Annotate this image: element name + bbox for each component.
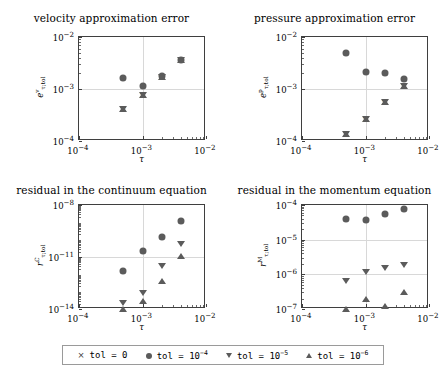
y-tick-minor <box>79 280 81 281</box>
x-tick <box>429 304 430 307</box>
y-tick-minor <box>79 294 81 295</box>
x-tick <box>429 136 430 139</box>
y-axis-label: rCτ;tol <box>34 227 47 283</box>
y-tick-minor <box>79 224 81 225</box>
chart-panel-top-right: pressure approximation error10−410−310−2… <box>223 0 446 168</box>
y-tick-minor <box>79 297 81 298</box>
y-tick-minor <box>79 281 81 282</box>
x-tick <box>366 136 367 139</box>
legend-entry-3: tol = 10−6 <box>305 349 368 361</box>
y-tick-minor <box>302 282 304 283</box>
plot-area <box>301 204 428 308</box>
data-point-circle <box>120 267 127 274</box>
data-point-circle <box>139 82 146 89</box>
y-tick <box>79 309 82 310</box>
x-tick-minor <box>203 305 204 307</box>
y-tick-minor <box>302 299 304 300</box>
y-tick-minor <box>79 245 81 246</box>
y-tick-minor <box>302 243 304 244</box>
x-tick-minor <box>162 137 163 139</box>
x-tick-minor <box>423 305 424 307</box>
data-point-circle <box>177 217 184 224</box>
data-point-triangle-up <box>177 253 185 259</box>
y-tick-minor <box>79 252 81 253</box>
triangle-up-icon <box>305 351 314 360</box>
y-tick-minor <box>79 206 81 207</box>
x-tick-minor <box>196 305 197 307</box>
y-tick-minor <box>79 231 81 232</box>
y-tick-label: 10−8 <box>38 198 74 211</box>
gridline-horizontal <box>302 240 427 241</box>
y-tick-minor <box>79 286 81 287</box>
data-point-triangle-up <box>158 74 166 80</box>
y-tick-minor <box>302 253 304 254</box>
y-tick-minor <box>79 244 81 245</box>
x-tick-label: 10−4 <box>283 143 319 156</box>
x-tick-minor <box>410 305 411 307</box>
y-tick-minor <box>79 275 81 276</box>
x-axis-label: τ <box>345 322 385 332</box>
y-tick-minor <box>79 226 81 227</box>
x-tick-label: 10−4 <box>60 311 96 324</box>
x-tick <box>302 304 303 307</box>
x-tick-label: 10−4 <box>283 311 319 324</box>
x-tick-minor <box>404 137 405 139</box>
y-tick-minor <box>79 228 81 229</box>
data-point-triangle-down <box>362 269 370 275</box>
x-tick-minor <box>162 305 163 307</box>
y-tick-minor <box>79 293 81 294</box>
y-tick-label: 10−2 <box>38 30 74 43</box>
y-tick-minor <box>302 280 304 281</box>
y-tick-minor <box>79 217 81 218</box>
y-tick-minor <box>79 49 81 50</box>
x-tick <box>206 304 207 307</box>
x-tick-minor <box>419 305 420 307</box>
y-tick-minor <box>302 229 304 230</box>
y-tick-minor <box>302 73 304 74</box>
x-tick-minor <box>404 305 405 307</box>
chart-title: pressure approximation error <box>223 12 446 24</box>
y-tick-minor <box>79 64 81 65</box>
y-tick-minor <box>79 207 81 208</box>
y-tick-minor <box>79 42 81 43</box>
y-tick-minor <box>79 212 81 213</box>
data-point-circle <box>362 69 369 76</box>
y-tick-minor <box>302 208 304 209</box>
data-point-triangle-down <box>158 263 166 269</box>
legend-label: tol = 0 <box>90 350 128 360</box>
y-tick-minor <box>302 219 304 220</box>
data-point-triangle-up <box>381 99 389 105</box>
data-point-triangle-down <box>177 241 185 247</box>
legend: ×tol = 0tol = 10−4tol = 10−5tol = 10−6 <box>62 345 384 365</box>
gridline-vertical <box>366 37 367 139</box>
x-tick-label: 10−4 <box>60 143 96 156</box>
chart-panel-bottom-left: residual in the continuum equation10−141… <box>0 172 223 340</box>
cross-icon: × <box>78 351 87 360</box>
x-tick-minor <box>410 137 411 139</box>
y-tick-minor <box>79 262 81 263</box>
y-tick-minor <box>79 277 81 278</box>
y-tick-minor <box>302 45 304 46</box>
legend-entry-0: ×tol = 0 <box>78 350 128 360</box>
y-tick-minor <box>79 45 81 46</box>
y-tick-minor <box>302 245 304 246</box>
y-tick-minor <box>302 210 304 211</box>
chart-title: velocity approximation error <box>0 12 223 24</box>
x-tick-minor <box>196 137 197 139</box>
x-tick <box>143 136 144 139</box>
x-tick-minor <box>192 137 193 139</box>
x-tick-minor <box>385 137 386 139</box>
triangle-down-icon <box>225 351 234 360</box>
y-tick-minor <box>79 210 81 211</box>
x-tick-minor <box>173 305 174 307</box>
y-tick-minor <box>302 64 304 65</box>
x-tick-label: 10−2 <box>410 311 446 324</box>
data-point-triangle-down <box>139 290 147 296</box>
data-point-triangle-up <box>158 278 166 284</box>
y-tick-minor <box>79 53 81 54</box>
y-tick-minor <box>302 276 304 277</box>
x-axis-label: τ <box>122 154 162 164</box>
y-tick-minor <box>79 241 81 242</box>
y-tick-minor <box>79 276 81 277</box>
y-tick <box>302 309 305 310</box>
